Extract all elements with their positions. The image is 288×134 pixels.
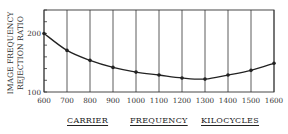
data-point [111, 66, 115, 70]
data-point [134, 70, 138, 74]
data-point [88, 59, 92, 63]
x-tick-label: 1600 [265, 96, 284, 105]
x-axis-label-kilocycles: KILOCYCLES [201, 116, 259, 125]
y-axis-label-line-1: IMAGE FREQUENCY [6, 11, 15, 94]
x-axis-label-frequency: FREQUENCY [130, 116, 188, 125]
line-chart: 6007008009001000110012001300140015001600… [0, 0, 288, 134]
x-tick-label: 900 [106, 96, 120, 105]
x-tick-label: 1300 [196, 96, 215, 105]
data-point [157, 73, 161, 77]
data-point [226, 73, 230, 77]
x-tick-label: 1200 [173, 96, 192, 105]
x-tick-label: 1500 [242, 96, 261, 105]
x-tick-label: 800 [83, 96, 97, 105]
y-axis-label: IMAGE FREQUENCY REJECTION RATIO [2, 8, 30, 96]
x-tick-label: 1000 [127, 96, 146, 105]
x-tick-label: 700 [60, 96, 74, 105]
data-point [65, 49, 69, 53]
data-point [180, 76, 184, 80]
x-axis-label-carrier: CARRIER [67, 116, 108, 125]
data-point [203, 77, 207, 81]
data-point [249, 69, 253, 73]
x-tick-label: 600 [37, 96, 51, 105]
chart-container: 6007008009001000110012001300140015001600… [0, 0, 288, 134]
x-tick-label: 1400 [219, 96, 238, 105]
y-axis-label-line-2: REJECTION RATIO [16, 16, 25, 90]
data-point [42, 32, 46, 36]
data-point [272, 62, 276, 66]
x-tick-label: 1100 [150, 96, 169, 105]
